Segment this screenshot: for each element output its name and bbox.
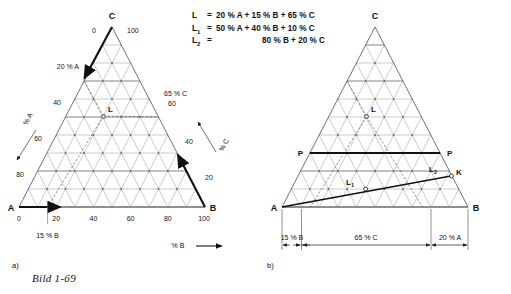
panel-b-highlight-lines [282, 45, 468, 207]
panel-b-corner-B: B [473, 203, 480, 213]
panel-b-dimension-block [282, 209, 468, 250]
panel-b-tie-label-P-right: P [447, 149, 453, 158]
panel-a-right-label-0: 65 % C [164, 90, 187, 97]
panel-b-point-L-marker [365, 115, 369, 119]
panel-a-arrow-C-axis [178, 155, 205, 207]
panel-a-diagram: C A B 0 100 20 % A 40 60 80 65 % C 60 40… [0, 0, 255, 294]
panel-b-panel-label: b) [267, 261, 274, 270]
panel-a-corner-B: B [210, 203, 217, 213]
panel-b-corner-C: C [372, 11, 379, 21]
panel-b-point-L1-marker [364, 187, 368, 191]
panel-b-point-L2-label: L2 [429, 165, 437, 175]
panel-a-right-label-3: 20 [205, 174, 213, 181]
panel-b-grid-horizontal [282, 45, 468, 207]
panel-a-point-L-label: L [108, 105, 113, 114]
panel-a-left-label-2: 60 [34, 135, 42, 142]
panel-b-diagram: C A B P P L L1 L2 K 15 % B 65 % C 20 % A… [255, 0, 511, 294]
panel-a-top-tick-100: 100 [127, 27, 139, 34]
figure-root: L=20 % A + 15 % B + 65 % C L1=50 % A + 4… [0, 0, 511, 294]
panel-a-axis-arrow-A [17, 130, 36, 160]
panel-a-panel-label: a) [12, 261, 19, 270]
panel-b-dimension-label-20A: 20 % A [439, 234, 462, 241]
panel-a-left-label-1: 40 [53, 99, 61, 106]
panel-a-bottom-tick-60: 60 [127, 215, 135, 222]
panel-a-grid-horizontal [19, 45, 205, 207]
panel-a-arrow-A-axis [85, 27, 113, 78]
panel-a-axis-arrow-C [198, 122, 216, 152]
panel-a-grid [19, 45, 205, 207]
panel-a-axis-title-A: % A [22, 111, 34, 126]
panel-a-top-tick-0: 0 [92, 27, 96, 34]
panel-b-grid-right-diagonals [291, 45, 449, 207]
panel-b-point-L2-sub: 2 [434, 169, 437, 175]
panel-b-grid [282, 45, 468, 207]
panel-a-axis-title-C: % C [218, 137, 230, 152]
panel-a-corner-A: A [8, 203, 15, 213]
panel-a-left-label-0: 20 % A [57, 63, 80, 70]
panel-a-bottom-tick-40: 40 [90, 215, 98, 222]
panel-a-grid-right-diagonals [28, 45, 186, 207]
panel-a-corner-C: C [109, 11, 116, 21]
panel-a-axis-title-B: % B [172, 242, 185, 249]
panel-b-dimension-label-15B: 15 % B [281, 234, 304, 241]
panel-b-tie-label-P-left: P [298, 149, 304, 158]
panel-b-point-L1-label: L1 [346, 178, 354, 188]
panel-a-right-label-1: 60 [168, 100, 176, 107]
panel-a-right-label-2: 40 [185, 138, 193, 145]
panel-b-dimension-label-65C: 65 % C [355, 234, 378, 241]
panel-b-mixing-line-AK [282, 176, 451, 207]
panel-a-callout-15B: 15 % B [36, 232, 59, 239]
panel-b-point-K-label: K [456, 168, 462, 177]
panel-a-bottom-tick-80: 80 [164, 215, 172, 222]
figure-caption: Bild 1-69 [32, 272, 76, 284]
panel-a-point-L-marker [102, 115, 106, 119]
panel-a-bottom-tick-0: 0 [17, 215, 21, 222]
panel-a-bottom-tick-100: 100 [198, 215, 210, 222]
panel-a-left-label-3: 80 [16, 171, 24, 178]
panel-b-point-L1-sub: 1 [351, 182, 354, 188]
panel-b-point-L-label: L [371, 105, 376, 114]
panel-b-grid-left-diagonals [301, 45, 459, 207]
panel-a-bottom-tick-20: 20 [52, 215, 60, 222]
panel-b-labels: C A B P P L L1 L2 K 15 % B 65 % C 20 % A… [267, 11, 480, 270]
panel-b-corner-A: A [271, 203, 278, 213]
panel-a-highlight-lines [19, 81, 205, 207]
panel-b-point-K-marker [450, 174, 454, 178]
